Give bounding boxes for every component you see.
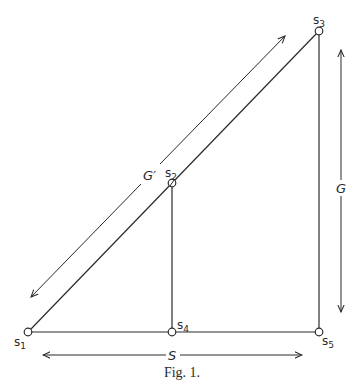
label-s4: s4 xyxy=(177,318,189,334)
dimension-label-g: G xyxy=(336,181,346,196)
label-s3: s3 xyxy=(313,13,325,29)
node-s1 xyxy=(24,328,32,336)
node-s4 xyxy=(168,328,176,336)
figure-caption: Fig. 1. xyxy=(0,365,364,381)
label-s5: s5 xyxy=(322,334,334,350)
dimension-label-g-prime: G′ xyxy=(143,168,156,183)
triangle-diagram: s1 s2 s3 s4 s5 G′ G S xyxy=(0,0,364,390)
label-s2: s2 xyxy=(165,166,177,182)
dimension-arrow-g-prime-lower xyxy=(31,184,141,297)
label-s1: s1 xyxy=(14,335,26,351)
dimension-label-s: S xyxy=(168,348,176,363)
dimension-arrow-g-prime-upper xyxy=(160,36,285,164)
